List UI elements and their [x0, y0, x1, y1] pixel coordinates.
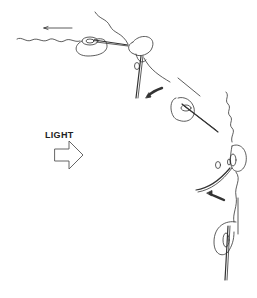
diagram-canvas — [0, 0, 257, 298]
arrow-up-left-3 — [178, 78, 200, 96]
light-arrow-icon — [55, 141, 83, 169]
flagellum-link-2 — [226, 92, 233, 142]
cell-stage-2 — [129, 36, 170, 98]
cell-stage-1 — [17, 37, 128, 56]
cell-stage-4 — [196, 145, 246, 222]
phototaxis-diagram: LIGHT — [0, 0, 257, 298]
cell-stage-3 — [171, 97, 218, 132]
flagellum-link-1 — [95, 12, 128, 44]
light-label: LIGHT — [45, 130, 74, 140]
cell-stage-5 — [214, 222, 236, 280]
